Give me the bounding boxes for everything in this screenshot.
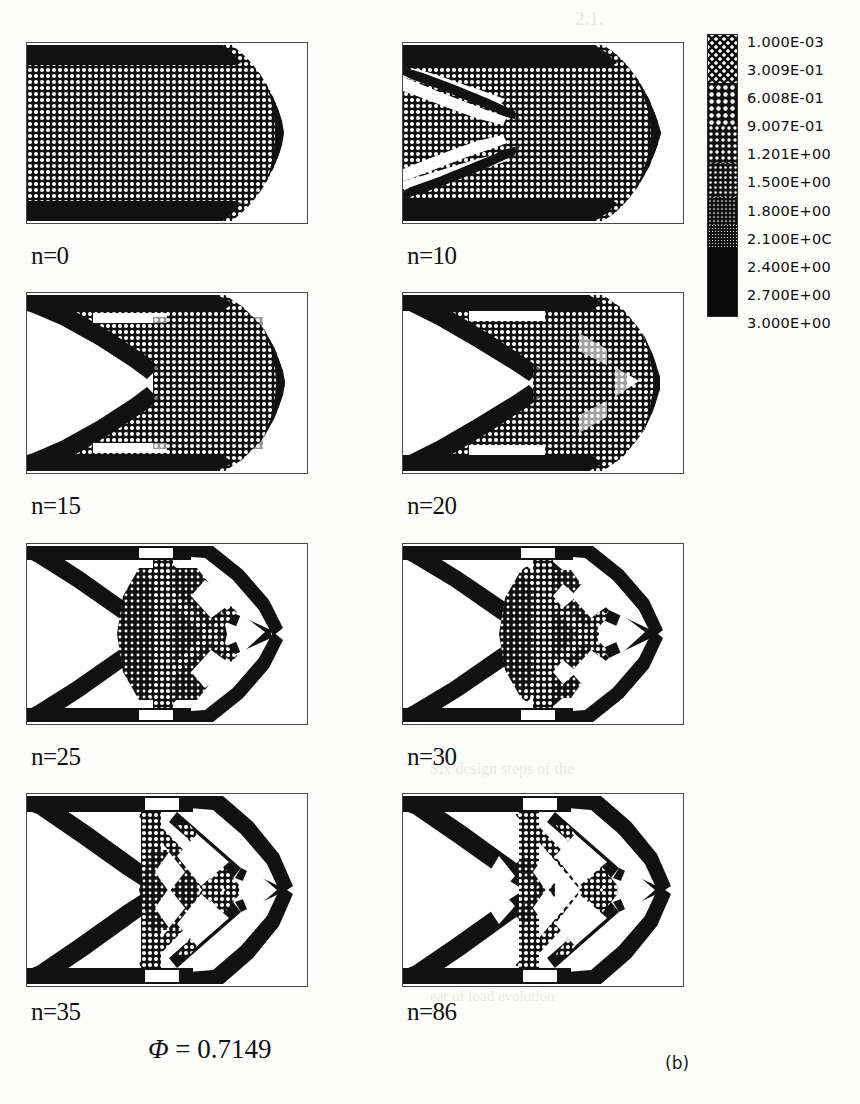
- ghost-text: 2.1.: [575, 8, 604, 30]
- colorbar: 1.000E-03 3.009E-01 6.008E-01 9.007E-01 …: [705, 34, 855, 324]
- phi-symbol: Φ: [148, 1034, 169, 1064]
- colorbar-tick: 1.800E+00: [747, 197, 855, 225]
- panel-n10-field: [403, 43, 683, 223]
- panel-label-n20: n=20: [407, 492, 457, 520]
- phi-number: 0.7149: [197, 1034, 271, 1064]
- panel-label-n10: n=10: [407, 242, 457, 270]
- colorbar-tick: 3.009E-01: [747, 56, 855, 84]
- objective-value: Φ = 0.7149: [148, 1034, 272, 1065]
- panel-n25: [26, 543, 308, 725]
- panel-label-n25: n=25: [31, 743, 81, 771]
- panel-n30: [402, 543, 684, 725]
- subfigure-label: (b): [665, 1053, 689, 1073]
- colorbar-tick: 1.500E+00: [747, 168, 855, 196]
- colorbar-tick: 9.007E-01: [747, 112, 855, 140]
- panel-n86-field: [403, 794, 683, 986]
- panel-n15: [26, 292, 308, 474]
- colorbar-tick: 1.000E-03: [747, 28, 855, 56]
- panel-n10: [402, 42, 684, 224]
- panel-n20: [402, 292, 684, 474]
- colorbar-swatch: [707, 34, 738, 317]
- panel-n0: [26, 42, 308, 224]
- colorbar-tick-list: 1.000E-03 3.009E-01 6.008E-01 9.007E-01 …: [747, 28, 855, 337]
- panel-n86: [402, 793, 684, 987]
- colorbar-tick: 2.100E+0C: [747, 225, 855, 253]
- panel-n25-field: [27, 544, 307, 724]
- colorbar-tick: 1.201E+00: [747, 140, 855, 168]
- colorbar-gradient: [708, 35, 737, 316]
- panel-n0-field: [27, 43, 307, 223]
- colorbar-tick: 6.008E-01: [747, 84, 855, 112]
- panel-label-n30: n=30: [407, 743, 457, 771]
- panel-label-n35: n=35: [31, 998, 81, 1026]
- phi-equals: =: [175, 1034, 190, 1064]
- figure-root: 2.1. Six design steps of the .15 1.8 E S…: [0, 0, 860, 1104]
- panel-label-n86: n=86: [407, 998, 457, 1026]
- panel-n15-field: [27, 293, 307, 473]
- panel-n35: [26, 793, 308, 987]
- panel-label-n0: n=0: [31, 242, 69, 270]
- colorbar-tick: 2.400E+00: [747, 253, 855, 281]
- colorbar-tick: 2.700E+00: [747, 281, 855, 309]
- panel-n20-field: [403, 293, 683, 473]
- panel-n35-field: [27, 794, 307, 986]
- panel-n30-field: [403, 544, 683, 724]
- panel-label-n15: n=15: [31, 492, 81, 520]
- colorbar-tick: 3.000E+00: [747, 309, 855, 337]
